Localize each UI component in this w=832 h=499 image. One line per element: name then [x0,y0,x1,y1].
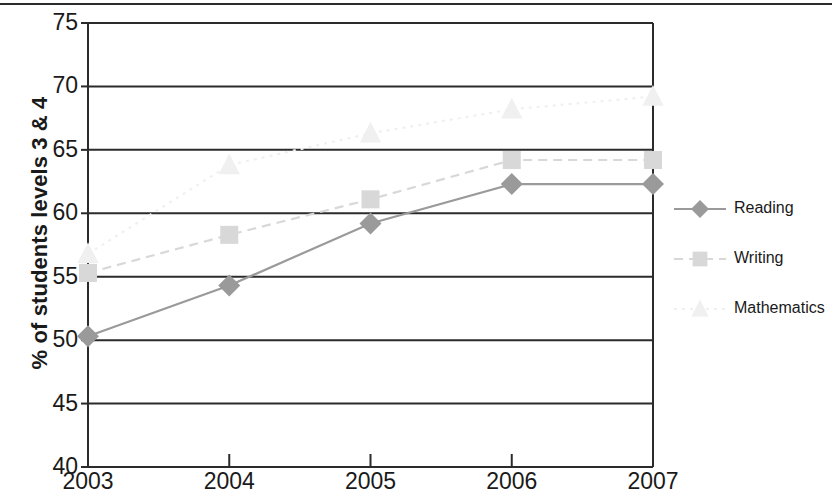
data-point-reading [77,325,99,347]
legend-marker-triangle-icon [672,298,728,320]
legend-item-mathematics[interactable]: Mathematics [672,286,832,336]
data-point-writing [220,226,238,244]
data-point-writing [79,264,97,282]
data-point-reading [218,275,240,297]
legend-item-reading[interactable]: Reading [672,186,832,236]
data-point-mathematics [360,122,381,143]
chart-figure: % of students levels 3 & 4 4045505560657… [0,0,832,499]
legend-label: Writing [734,249,784,267]
legend-label: Reading [734,199,794,217]
legend-label: Mathematics [734,299,825,317]
legend-marker-square-icon [672,248,728,270]
data-point-writing [503,151,521,169]
data-point-mathematics [77,242,98,263]
legend-item-writing[interactable]: Writing [672,236,832,286]
data-point-reading [360,212,382,234]
data-point-mathematics [219,154,240,175]
chart-legend: ReadingWritingMathematics [672,186,832,336]
data-point-writing [361,190,379,208]
data-point-mathematics [501,98,522,119]
legend-marker-diamond-icon [672,198,728,220]
data-point-reading [642,173,664,195]
data-point-mathematics [642,85,663,106]
data-point-reading [501,173,523,195]
data-point-writing [644,151,662,169]
